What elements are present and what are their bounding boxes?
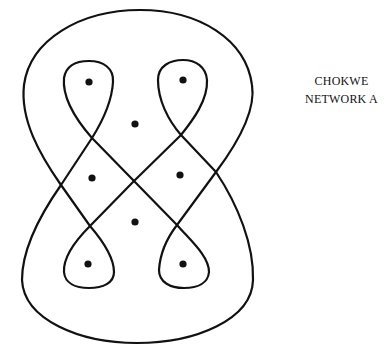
chokwe-network-diagram bbox=[0, 0, 280, 355]
network-drawing bbox=[0, 0, 280, 355]
dot-mid-right bbox=[176, 171, 183, 178]
caption-line-1: CHOKWE bbox=[296, 72, 387, 90]
dot-lower-right bbox=[179, 260, 186, 267]
dot-top-center bbox=[131, 120, 138, 127]
dot-lower-left bbox=[84, 260, 91, 267]
upper-right-loop bbox=[134, 60, 207, 181]
dot-mid-left bbox=[88, 174, 95, 181]
dot-upper-left bbox=[85, 78, 92, 85]
figure-caption: CHOKWE NETWORK A bbox=[296, 72, 387, 108]
lower-left-loop bbox=[64, 181, 134, 288]
outer-upper-curve bbox=[23, 10, 252, 226]
caption-line-2: NETWORK A bbox=[296, 90, 387, 108]
dot-upper-right bbox=[179, 76, 186, 83]
outer-lower-curve bbox=[22, 135, 253, 343]
dot-bottom-center bbox=[131, 218, 138, 225]
